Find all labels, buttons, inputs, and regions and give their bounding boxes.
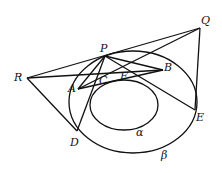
projective-geometry-diagram: P Q R A B C F D E α β: [0, 0, 222, 173]
label-alpha: α: [136, 126, 144, 139]
line-R-Q: [27, 28, 200, 78]
label-R: R: [13, 71, 22, 84]
label-P: P: [99, 42, 108, 55]
label-D: D: [69, 136, 79, 149]
label-B: B: [163, 61, 172, 74]
line-Q-E: [195, 28, 200, 110]
label-C: C: [99, 74, 108, 87]
label-Q: Q: [201, 14, 210, 27]
line-P-E: [105, 56, 195, 110]
line-P-B: [105, 56, 163, 70]
ellipse-alpha: [90, 80, 158, 130]
label-F: F: [119, 70, 128, 83]
label-A: A: [67, 82, 76, 95]
line-P-D: [77, 56, 105, 131]
label-beta: β: [160, 149, 167, 162]
label-E: E: [195, 111, 204, 124]
